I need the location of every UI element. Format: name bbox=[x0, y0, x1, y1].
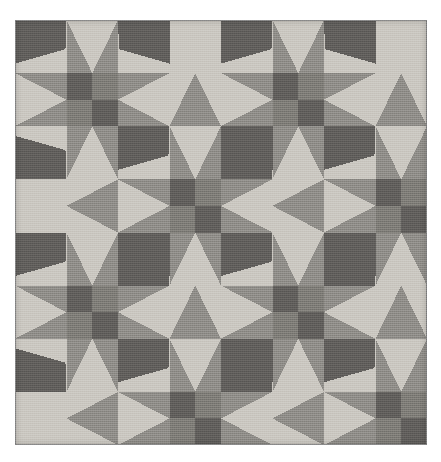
four-patch-square bbox=[195, 206, 221, 233]
four-patch-square bbox=[376, 179, 402, 206]
quilt-pattern-svg bbox=[15, 20, 427, 445]
quilt-blocks-group bbox=[15, 20, 427, 445]
four-patch-square bbox=[376, 392, 402, 419]
four-patch-square bbox=[401, 206, 427, 233]
four-patch-square bbox=[170, 418, 196, 445]
four-patch-square bbox=[273, 73, 299, 100]
four-patch-square bbox=[273, 312, 299, 339]
four-patch-square bbox=[170, 206, 196, 233]
four-patch-square bbox=[401, 179, 427, 206]
four-patch-square bbox=[92, 100, 118, 127]
four-patch-square bbox=[67, 100, 93, 127]
four-patch-square bbox=[170, 179, 196, 206]
four-patch-square bbox=[298, 286, 324, 313]
four-patch-square bbox=[195, 418, 221, 445]
four-patch-square bbox=[298, 100, 324, 127]
four-patch-square bbox=[92, 286, 118, 313]
four-patch-square bbox=[376, 418, 402, 445]
four-patch-square bbox=[67, 312, 93, 339]
four-patch-square bbox=[195, 392, 221, 419]
four-patch-square bbox=[195, 179, 221, 206]
four-patch-square bbox=[298, 312, 324, 339]
four-patch-square bbox=[401, 418, 427, 445]
four-patch-square bbox=[92, 312, 118, 339]
artwork-canvas bbox=[0, 0, 441, 462]
four-patch-square bbox=[273, 100, 299, 127]
four-patch-square bbox=[67, 73, 93, 100]
four-patch-square bbox=[67, 286, 93, 313]
four-patch-square bbox=[170, 392, 196, 419]
four-patch-square bbox=[273, 286, 299, 313]
four-patch-square bbox=[92, 73, 118, 100]
four-patch-square bbox=[401, 392, 427, 419]
four-patch-square bbox=[298, 73, 324, 100]
four-patch-square bbox=[376, 206, 402, 233]
quilt-panel bbox=[15, 20, 427, 445]
